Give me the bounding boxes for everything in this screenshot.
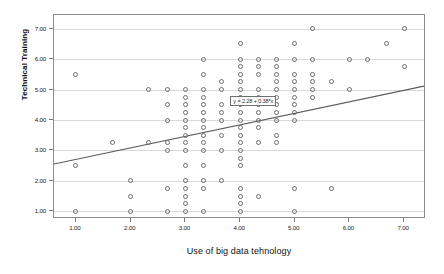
y-tick-label: 2.00 <box>22 176 46 183</box>
data-point-marker <box>238 72 243 77</box>
data-point-marker <box>238 148 243 153</box>
x-tick-label: 6.00 <box>333 224 363 231</box>
data-point-marker <box>256 125 261 130</box>
data-point-marker <box>256 87 261 92</box>
data-point-marker <box>274 133 279 138</box>
data-point-marker <box>219 148 224 153</box>
gridline <box>54 181 424 182</box>
data-point-marker <box>256 64 261 69</box>
data-point-marker <box>310 26 315 31</box>
data-point-marker <box>201 178 206 183</box>
data-point-marker <box>183 87 188 92</box>
data-point-marker <box>73 209 78 214</box>
data-point-marker <box>183 95 188 100</box>
data-point-marker <box>274 79 279 84</box>
data-point-marker <box>310 87 315 92</box>
x-tick-mark <box>239 218 240 222</box>
data-point-marker <box>292 87 297 92</box>
data-point-marker <box>201 186 206 191</box>
data-point-marker <box>347 87 352 92</box>
data-point-marker <box>238 87 243 92</box>
data-point-marker <box>310 72 315 77</box>
x-tick-mark <box>348 218 349 222</box>
data-point-marker <box>238 140 243 145</box>
data-point-marker <box>256 57 261 62</box>
data-point-marker <box>256 194 261 199</box>
data-point-marker <box>238 186 243 191</box>
data-point-marker <box>256 118 261 123</box>
data-point-marker <box>201 118 206 123</box>
data-point-marker <box>128 178 133 183</box>
data-point-marker <box>310 79 315 84</box>
data-point-marker <box>201 140 206 145</box>
data-point-marker <box>238 64 243 69</box>
x-tick-label: 5.00 <box>279 224 309 231</box>
data-point-marker <box>402 26 407 31</box>
data-point-marker <box>219 178 224 183</box>
data-point-marker <box>310 95 315 100</box>
data-point-marker <box>183 133 188 138</box>
data-point-marker <box>219 110 224 115</box>
data-point-marker <box>183 125 188 130</box>
data-point-marker <box>201 110 206 115</box>
data-point-marker <box>183 140 188 145</box>
data-point-marker <box>183 148 188 153</box>
gridline <box>54 29 424 30</box>
data-point-marker <box>238 118 243 123</box>
data-point-marker <box>292 186 297 191</box>
data-point-marker <box>219 133 224 138</box>
data-point-marker <box>292 57 297 62</box>
data-point-marker <box>274 87 279 92</box>
data-point-marker <box>183 194 188 199</box>
data-point-marker <box>274 140 279 145</box>
data-point-marker <box>238 133 243 138</box>
data-point-marker <box>292 110 297 115</box>
y-tick-mark <box>49 28 53 29</box>
data-point-marker <box>183 102 188 107</box>
data-point-marker <box>238 201 243 206</box>
x-tick-label: 4.00 <box>224 224 254 231</box>
data-point-marker <box>146 140 151 145</box>
data-point-marker <box>274 72 279 77</box>
data-point-marker <box>73 72 78 77</box>
x-tick-label: 3.00 <box>169 224 199 231</box>
y-tick-mark <box>49 149 53 150</box>
data-point-marker <box>128 209 133 214</box>
data-point-marker <box>292 102 297 107</box>
data-point-marker <box>274 64 279 69</box>
y-tick-mark <box>49 58 53 59</box>
data-point-marker <box>384 41 389 46</box>
data-point-marker <box>238 125 243 130</box>
data-point-marker <box>183 118 188 123</box>
data-point-marker <box>201 72 206 77</box>
data-point-marker <box>310 57 315 62</box>
plot-area: y = 2.28 + 0.38*x <box>53 14 425 218</box>
data-point-marker <box>201 133 206 138</box>
data-point-marker <box>201 125 206 130</box>
data-point-marker <box>292 95 297 100</box>
y-axis-title: Technical Training <box>20 0 29 135</box>
data-point-marker <box>238 110 243 115</box>
data-point-marker <box>183 201 188 206</box>
data-point-marker <box>274 118 279 123</box>
data-point-marker <box>219 87 224 92</box>
data-point-marker <box>183 178 188 183</box>
data-point-marker <box>128 194 133 199</box>
data-point-marker <box>274 57 279 62</box>
data-point-marker <box>165 87 170 92</box>
data-point-marker <box>183 209 188 214</box>
data-point-marker <box>238 209 243 214</box>
data-point-marker <box>365 57 370 62</box>
x-tick-label: 1.00 <box>60 224 90 231</box>
data-point-marker <box>238 163 243 168</box>
data-point-marker <box>292 41 297 46</box>
x-axis-title: Use of big data tehnology <box>53 246 425 256</box>
data-point-marker <box>201 163 206 168</box>
y-tick-label: 1.00 <box>22 207 46 214</box>
scatter-chart: y = 2.28 + 0.38*x 1.002.003.004.005.006.… <box>0 0 444 274</box>
data-point-marker <box>292 72 297 77</box>
data-point-marker <box>165 118 170 123</box>
data-point-marker <box>165 209 170 214</box>
x-tick-mark <box>403 218 404 222</box>
data-point-marker <box>201 95 206 100</box>
